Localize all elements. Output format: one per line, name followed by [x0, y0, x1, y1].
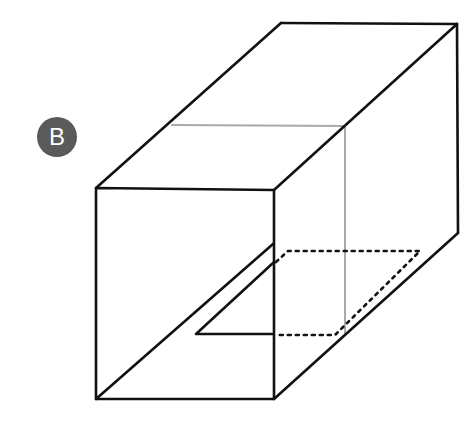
back-right-edge: [457, 24, 458, 233]
hidden-top-edge: [172, 125, 345, 126]
bottom-right-edge: [274, 233, 458, 399]
dotted-parallelogram: [276, 251, 420, 335]
visible-edges: [96, 23, 458, 399]
front-face: [96, 188, 274, 399]
hidden-edges: [172, 125, 345, 335]
front-diagonal: [96, 244, 273, 399]
top-left-edge: [96, 23, 281, 188]
figure-canvas: B: [0, 0, 464, 423]
top-right-edge: [274, 24, 457, 190]
rectangular-prism-diagram: [0, 0, 464, 423]
dotted-section: [276, 251, 420, 335]
triangle-outline: [196, 263, 273, 334]
back-top-edge: [281, 23, 457, 24]
